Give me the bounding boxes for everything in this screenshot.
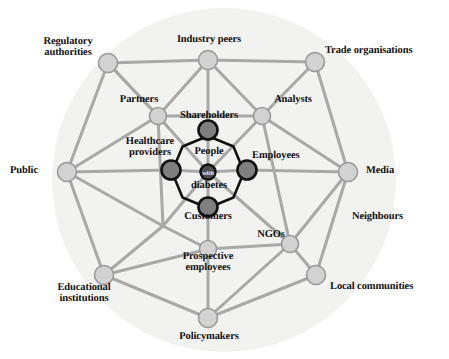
node-trade-organisations[interactable] — [306, 53, 325, 72]
label-customers: Customers — [172, 211, 244, 222]
label-employees: Employees — [252, 150, 318, 161]
label-shareholders: Shareholders — [170, 110, 248, 121]
node-industry-peers[interactable] — [199, 51, 218, 70]
spoke-healthcare-public — [67, 170, 171, 172]
label-trade-organisations: Trade organisations — [325, 45, 449, 56]
node-healthcare-providers[interactable] — [162, 161, 181, 180]
node-employees[interactable] — [238, 161, 257, 180]
label-ngos: NGOs — [249, 229, 293, 240]
stakeholder-diagram: Industry peersTrade organisationsMediaNe… — [0, 0, 449, 359]
center-label-people: People — [180, 146, 238, 157]
label-industry-peers: Industry peers — [171, 34, 247, 45]
label-prospective-employees: Prospective employees — [165, 251, 251, 274]
label-local-communities: Local communities — [330, 281, 448, 292]
label-policymakers: Policymakers — [170, 331, 248, 342]
center-label-with: with — [196, 169, 220, 176]
outerring-segment-0 — [208, 60, 315, 62]
node-policymakers[interactable] — [199, 309, 218, 328]
node-media[interactable] — [339, 163, 358, 182]
label-analysts: Analysts — [262, 94, 324, 105]
label-healthcare-providers: Healthcare providers — [111, 136, 189, 159]
node-public[interactable] — [58, 163, 77, 182]
label-neighbours: Neighbours — [352, 211, 430, 222]
label-public: Public — [10, 165, 58, 176]
node-partners[interactable] — [150, 108, 167, 125]
label-regulatory-authorities: Regulatory authorities — [26, 36, 110, 59]
node-shareholders[interactable] — [199, 121, 218, 140]
spoke-employees-media — [247, 170, 348, 172]
label-media: Media — [366, 165, 426, 176]
label-partners: Partners — [108, 94, 170, 105]
label-educational-institutions: Educational institutions — [38, 282, 130, 305]
center-label-diabetes: diabetes — [176, 180, 242, 191]
node-analysts[interactable] — [254, 108, 271, 125]
node-local-communities[interactable] — [307, 266, 326, 285]
